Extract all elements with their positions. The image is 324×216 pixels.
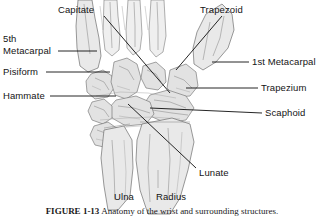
hamate-bone	[86, 70, 114, 99]
label-capitate: Capitate	[58, 4, 94, 15]
label-lunate: Lunate	[199, 167, 229, 178]
label-trapezium: Trapezium	[261, 82, 306, 93]
figure-caption: FIGURE 1-13 Anatomy of the wrist and sur…	[0, 206, 324, 216]
pisiform-bone	[88, 99, 112, 124]
label-pisiform: Pisiform	[3, 66, 38, 77]
figure-caption-text: Anatomy of the wrist and surrounding str…	[101, 206, 278, 216]
label-ulna: Ulna	[114, 191, 134, 202]
label-scaphoid: Scaphoid	[265, 107, 305, 118]
label-first-metacarpal: 1st Metacarpal	[252, 56, 316, 67]
label-radius: Radius	[156, 191, 186, 202]
figure-caption-number: FIGURE 1-13	[46, 206, 100, 216]
anatomy-figure: Capitate Trapezoid 5th Metacarpal 1st Me…	[0, 0, 324, 216]
trapezoid-bone	[141, 62, 166, 90]
label-fifth-metacarpal-line2: Metacarpal	[3, 45, 51, 56]
label-trapezoid: Trapezoid	[200, 4, 243, 15]
fourth-metacarpal-bone	[103, 0, 120, 56]
label-hammate: Hammate	[3, 90, 45, 101]
label-fifth-metacarpal-line1: 5th	[3, 33, 17, 44]
